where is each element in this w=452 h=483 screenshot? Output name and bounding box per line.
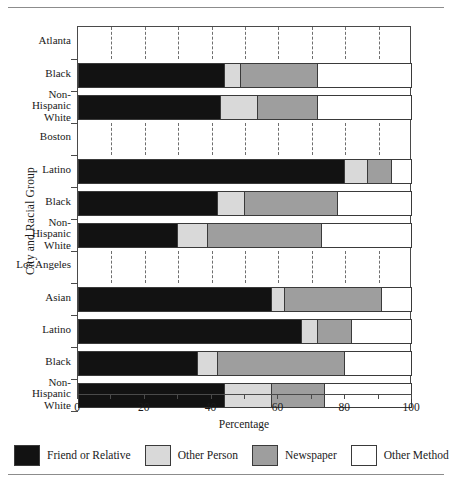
bar-segment-other-person[interactable] (220, 95, 258, 120)
y-axis-category-label: Asian (0, 292, 71, 304)
gridline (212, 251, 213, 283)
group-band (78, 123, 410, 155)
bar-segment-newspaper[interactable] (367, 159, 392, 184)
gridline (178, 27, 179, 59)
chart-legend: Friend or RelativeOther PersonNewspaperO… (14, 443, 438, 467)
legend-swatch-icon (14, 445, 40, 466)
gridline (345, 123, 346, 155)
bar-segment-other-person[interactable] (177, 223, 208, 248)
bar-segment-newspaper[interactable] (284, 287, 382, 312)
stacked-bar[interactable] (78, 191, 412, 216)
bar-segment-friend-or-relative[interactable] (78, 95, 222, 120)
gridline (345, 27, 346, 59)
bar-segment-newspaper[interactable] (317, 319, 352, 344)
x-axis-tick-label: 40 (191, 401, 231, 413)
x-axis-tick-label: 100 (391, 401, 431, 413)
gridline (145, 123, 146, 155)
legend-item[interactable]: Other Person (145, 445, 238, 466)
y-axis-tick (71, 187, 78, 188)
gridline (379, 27, 380, 59)
bar-segment-friend-or-relative[interactable] (78, 287, 272, 312)
stacked-bar[interactable] (78, 351, 412, 376)
gridline (278, 123, 279, 155)
stacked-bar[interactable] (78, 63, 412, 88)
bar-row (78, 95, 410, 120)
gridline (312, 123, 313, 155)
bar-segment-other-person[interactable] (217, 191, 245, 216)
y-axis-category-label: Non-HispanicWhite (0, 217, 71, 252)
x-axis-tick (411, 394, 412, 399)
y-axis-group-label: Atlanta (0, 35, 71, 47)
bar-segment-other-method[interactable] (391, 159, 412, 184)
bar-segment-newspaper[interactable] (240, 63, 318, 88)
y-axis-tick (71, 379, 78, 380)
bar-segment-other-method[interactable] (321, 223, 412, 248)
bar-segment-friend-or-relative[interactable] (78, 191, 218, 216)
gridline (212, 123, 213, 155)
stacked-bar[interactable] (78, 223, 412, 248)
group-band (78, 251, 410, 283)
bar-segment-other-person[interactable] (271, 287, 286, 312)
stacked-bar-chart-figure: City and Racial Group Percentage Friend … (0, 0, 452, 483)
bar-segment-other-method[interactable] (337, 191, 412, 216)
gridline (145, 251, 146, 283)
y-axis-category-label: Black (0, 68, 71, 80)
gridline (245, 251, 246, 283)
y-axis-tick (71, 315, 78, 316)
y-axis-label-line: Black (0, 356, 71, 368)
stacked-bar[interactable] (78, 287, 412, 312)
stacked-bar[interactable] (78, 95, 412, 120)
bar-segment-other-method[interactable] (381, 287, 412, 312)
bar-segment-other-method[interactable] (351, 319, 412, 344)
gridline (178, 251, 179, 283)
bar-row (78, 63, 410, 88)
x-axis-tick (77, 394, 78, 399)
x-axis-tick (378, 394, 379, 399)
bar-segment-other-person[interactable] (301, 319, 319, 344)
gridline (111, 27, 112, 59)
bar-segment-other-method[interactable] (344, 351, 412, 376)
gridline (379, 123, 380, 155)
x-axis-tick (211, 394, 212, 399)
legend-item[interactable]: Other Method (351, 445, 449, 466)
bar-segment-newspaper[interactable] (244, 191, 339, 216)
bar-segment-other-method[interactable] (317, 95, 412, 120)
bar-segment-friend-or-relative[interactable] (78, 159, 345, 184)
bar-segment-friend-or-relative[interactable] (78, 351, 198, 376)
y-axis-label-line: White (0, 240, 71, 252)
bar-segment-other-person[interactable] (224, 63, 242, 88)
y-axis-tick (71, 91, 78, 92)
gridline (178, 123, 179, 155)
plot-area (77, 26, 411, 394)
y-axis-label-line: Black (0, 68, 71, 80)
x-axis-tick-label: 0 (57, 401, 97, 413)
legend-label: Other Method (384, 449, 449, 461)
bar-segment-other-method[interactable] (317, 63, 412, 88)
x-axis-title: Percentage (77, 418, 411, 430)
bar-segment-friend-or-relative[interactable] (78, 319, 302, 344)
stacked-bar[interactable] (78, 319, 412, 344)
bar-row (78, 351, 410, 376)
legend-label: Friend or Relative (47, 449, 131, 461)
y-axis-category-label: Latino (0, 164, 71, 176)
gridline (111, 251, 112, 283)
stacked-bar[interactable] (78, 159, 412, 184)
bar-segment-other-person[interactable] (197, 351, 218, 376)
legend-item[interactable]: Newspaper (252, 445, 337, 466)
bar-segment-friend-or-relative[interactable] (78, 223, 178, 248)
gridline (245, 123, 246, 155)
bar-segment-newspaper[interactable] (207, 223, 322, 248)
gridline (312, 27, 313, 59)
bar-segment-newspaper[interactable] (257, 95, 318, 120)
gridline (145, 27, 146, 59)
x-axis-tick-label: 60 (257, 401, 297, 413)
y-axis-tick (71, 251, 78, 252)
y-axis-label-line: Latino (0, 164, 71, 176)
bar-segment-newspaper[interactable] (217, 351, 345, 376)
bar-segment-other-person[interactable] (344, 159, 369, 184)
legend-label: Newspaper (285, 449, 337, 461)
x-axis-tick (344, 394, 345, 399)
legend-item[interactable]: Friend or Relative (14, 445, 131, 466)
x-axis-tick (244, 394, 245, 399)
bar-segment-friend-or-relative[interactable] (78, 63, 225, 88)
